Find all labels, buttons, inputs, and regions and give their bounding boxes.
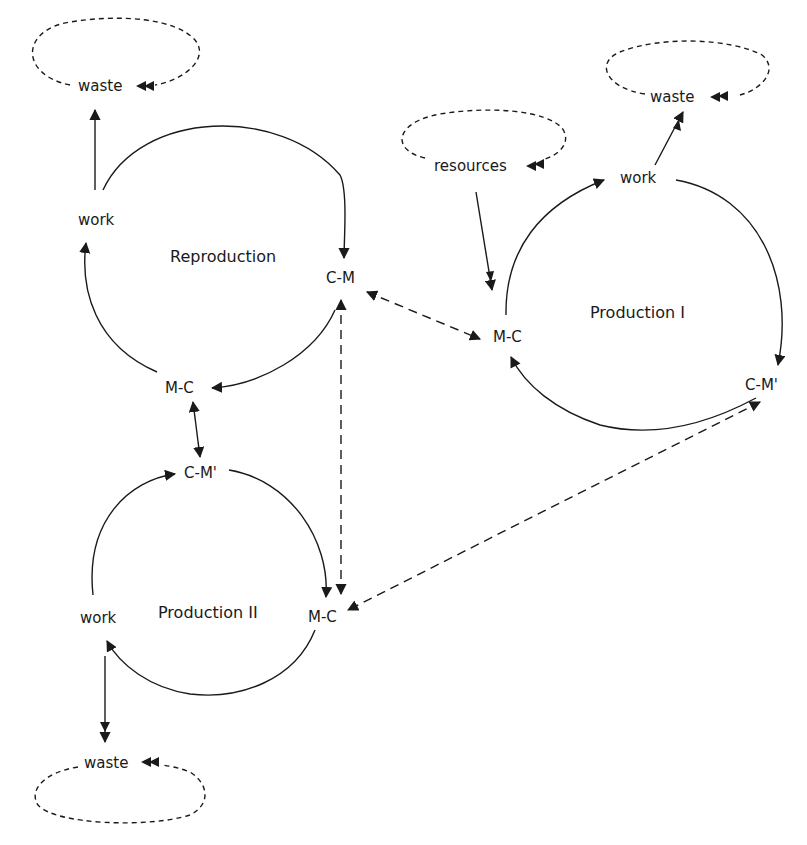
double-arrowhead-icon	[710, 91, 728, 102]
node-work: work	[78, 211, 115, 229]
arc-work-to-cm	[103, 126, 345, 258]
resources-label: resources	[434, 157, 507, 175]
cycle-title: Reproduction	[170, 247, 276, 266]
waste-cycle-ellipse	[33, 18, 200, 85]
node-work: work	[620, 169, 657, 187]
waste-label: waste	[84, 754, 128, 772]
waste-cycle-ellipse	[35, 765, 205, 823]
cycle-title: Production II	[158, 603, 258, 622]
arrowhead-icon	[100, 722, 110, 732]
node-cm: C-M'	[184, 464, 217, 482]
resources-cycle-ellipse	[402, 110, 566, 160]
resources-pool: resources	[402, 110, 566, 290]
node-mc: M-C	[165, 379, 194, 397]
node-cm: C-M'	[745, 376, 778, 394]
cycle-reproduction: work Reproduction C-M M-C	[78, 110, 355, 397]
waste-cycle-ellipse	[606, 41, 769, 95]
arc-cm-to-mc	[229, 470, 326, 597]
waste-pool-top-right: waste	[606, 41, 769, 106]
arc-work-to-cm	[92, 474, 175, 595]
waste-label: waste	[650, 88, 694, 106]
arc-mc-to-work	[107, 630, 315, 695]
double-arrowhead-icon	[141, 757, 159, 767]
node-cm: C-M	[326, 269, 355, 287]
waste-pool-top-left: waste	[33, 18, 200, 95]
circuits-diagram: waste work Reproduction C-M M-C resource…	[0, 0, 807, 845]
link-reproduction-cm-to-production1-mc	[367, 292, 480, 339]
link-production1-cm-to-production2-mc	[348, 402, 760, 610]
arc-work-to-cm	[676, 180, 782, 365]
waste-pool-bottom: waste	[35, 754, 205, 823]
arc-cm-to-mc	[511, 357, 756, 430]
node-work: work	[80, 609, 117, 627]
cycle-title: Production I	[590, 303, 685, 322]
node-mc: M-C	[308, 608, 337, 626]
cycle-production-2: C-M' work Production II M-C	[80, 464, 337, 742]
cycle-production-1: work Production I M-C C-M'	[493, 112, 782, 430]
arc-mc-to-work	[85, 243, 157, 372]
arc-cm-to-mc	[212, 310, 335, 388]
double-arrowhead-icon	[136, 81, 154, 91]
node-mc: M-C	[493, 328, 522, 346]
link-reproduction-mc-to-production2-cm	[193, 402, 200, 457]
double-arrowhead-icon	[526, 159, 544, 171]
waste-label: waste	[78, 77, 122, 95]
arrow-work-to-waste	[655, 112, 683, 165]
arc-mc-to-work	[506, 180, 604, 315]
